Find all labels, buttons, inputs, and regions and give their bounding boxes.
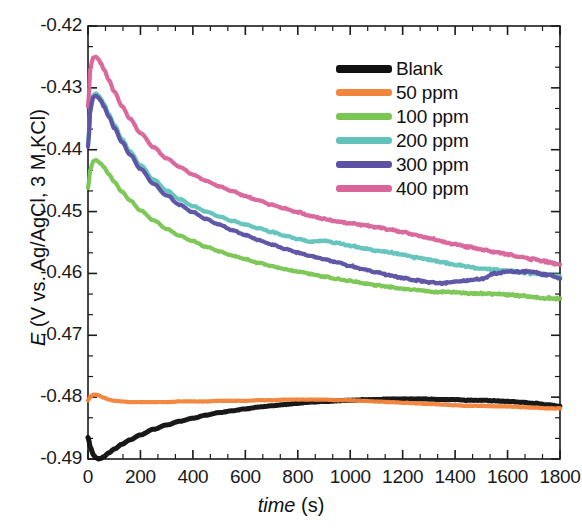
y-tick-label: -0.42 [40, 14, 82, 36]
x-axis-units: (s) [301, 494, 324, 516]
legend-label: Blank [396, 58, 443, 80]
data-series-group [88, 57, 560, 459]
legend-swatch-icon [336, 161, 392, 168]
series-line [88, 96, 560, 284]
legend-label: 300 ppm [396, 154, 469, 176]
x-tick-label: 800 [268, 466, 328, 488]
legend-swatch-icon [336, 89, 392, 96]
plot-canvas [0, 0, 582, 528]
x-axis-symbol: time [258, 494, 296, 516]
series-line [88, 57, 560, 265]
x-tick-label: 1800 [530, 466, 582, 488]
x-tick-label: 200 [110, 466, 170, 488]
x-tick-label: 600 [215, 466, 275, 488]
chart-figure: -0.42-0.43-0.44-0.45-0.46-0.47-0.48-0.49… [0, 0, 582, 528]
legend-swatch-icon [336, 185, 392, 192]
legend-item[interactable]: 200 ppm [336, 130, 469, 151]
legend-swatch-icon [336, 137, 392, 144]
legend-label: 100 ppm [396, 106, 469, 128]
legend-item[interactable]: 100 ppm [336, 106, 469, 127]
x-tick-label: 1600 [478, 466, 538, 488]
legend-item[interactable]: 50 ppm [336, 82, 469, 103]
x-tick-label: 1200 [373, 466, 433, 488]
x-axis-title: time (s) [0, 494, 582, 517]
x-tick-label: 1000 [320, 466, 380, 488]
legend-item[interactable]: 400 ppm [336, 178, 469, 199]
legend-label: 400 ppm [396, 178, 469, 200]
y-axis-units: (V vs. Ag/AgCl, 3 M KCl) [27, 109, 49, 327]
x-tick-label: 400 [163, 466, 223, 488]
legend-label: 50 ppm [396, 82, 458, 104]
legend-item[interactable]: 300 ppm [336, 154, 469, 175]
x-tick-label: 1400 [425, 466, 485, 488]
y-axis-title: E (V vs. Ag/AgCl, 3 M KCl) [27, 38, 50, 418]
x-tick-label: 0 [58, 466, 118, 488]
y-axis-symbol: E [27, 333, 49, 346]
legend-label: 200 ppm [396, 130, 469, 152]
legend-item[interactable]: Blank [336, 58, 469, 79]
legend-swatch-icon [336, 65, 392, 73]
legend-swatch-icon [336, 113, 392, 120]
chart-legend: Blank50 ppm100 ppm200 ppm300 ppm400 ppm [336, 58, 469, 199]
